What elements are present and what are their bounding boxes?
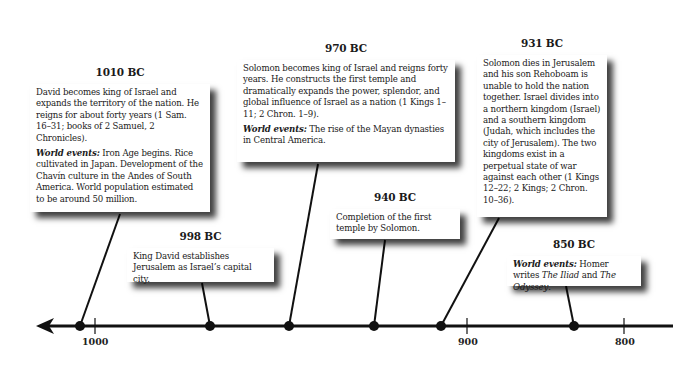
- world-events-label: World events:: [513, 259, 577, 269]
- world-events-label: World events:: [243, 124, 307, 134]
- event-text: Completion of the first temple by Solomo…: [336, 212, 454, 235]
- event-date: 1010 BC: [30, 67, 210, 78]
- conjunction: and: [579, 270, 600, 280]
- event-text: David becomes king of Israel and expands…: [36, 87, 204, 144]
- world-events-label: World events:: [36, 148, 100, 158]
- world-events: World events: Homer writes The Iliad and…: [513, 259, 635, 293]
- event-date: 850 BC: [507, 239, 641, 250]
- event-card-850bc: 850 BC World events: Homer writes The Il…: [507, 256, 641, 286]
- event-card-970bc: 970 BC Solomon becomes king of Israel an…: [237, 60, 455, 162]
- event-text: Solomon dies in Jerusalem and his son Re…: [483, 58, 601, 206]
- event-text: Solomon becomes king of Israel and reign…: [243, 63, 449, 120]
- event-date: 970 BC: [237, 43, 455, 54]
- event-date: 940 BC: [330, 192, 460, 203]
- event-date: 931 BC: [477, 38, 607, 49]
- world-events: World events: The rise of the Mayan dyna…: [243, 124, 449, 147]
- event-card-931bc: 931 BC Solomon dies in Jerusalem and his…: [477, 55, 607, 217]
- tick-label-800: 800: [615, 336, 635, 347]
- event-date: 998 BC: [127, 231, 274, 242]
- book-title-iliad: The Iliad: [542, 270, 579, 280]
- period: .: [548, 282, 551, 292]
- timeline-diagram: 1000 900 800 1010 BC David becomes king …: [0, 0, 673, 373]
- tick-label-900: 900: [458, 336, 478, 347]
- event-card-940bc: 940 BC Completion of the first temple by…: [330, 209, 460, 239]
- event-card-998bc: 998 BC King David establishes Jerusalem …: [127, 248, 274, 282]
- world-events: World events: Iron Age begins. Rice cult…: [36, 148, 204, 205]
- event-text: King David establishes Jerusalem as Isra…: [133, 251, 268, 285]
- tick-label-1000: 1000: [82, 336, 108, 347]
- event-card-1010bc: 1010 BC David becomes king of Israel and…: [30, 84, 210, 212]
